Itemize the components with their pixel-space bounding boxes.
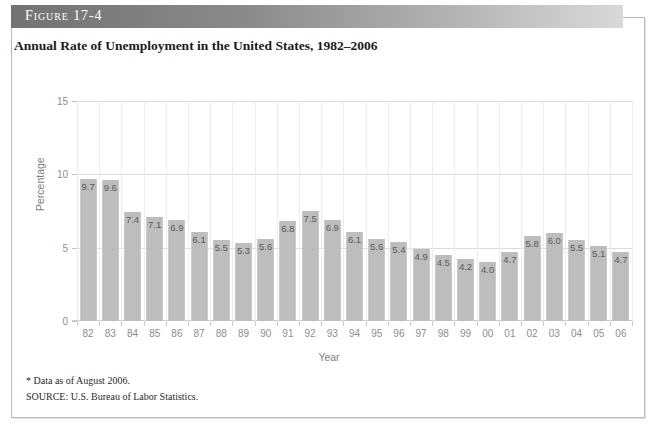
x-tick-mark (521, 321, 522, 326)
bar-value-label: 6.1 (192, 234, 207, 245)
y-axis-title: Percentage (34, 157, 46, 211)
bar: 6.1 (191, 232, 208, 321)
bar-value-label: 6.0 (547, 235, 562, 246)
x-tick-mark (477, 321, 478, 326)
bar: 9.6 (102, 180, 119, 321)
x-tick-mark (121, 321, 122, 326)
x-tick-mark (232, 321, 233, 326)
bar: 5.3 (235, 243, 252, 321)
footnote-text: * Data as of August 2006. (26, 373, 198, 389)
x-gridline (521, 101, 522, 321)
y-tick-label: 10 (40, 169, 68, 180)
x-gridline (166, 101, 167, 321)
x-tick-label: 91 (282, 328, 293, 339)
x-tick-label: 85 (149, 328, 160, 339)
x-gridline (366, 101, 367, 321)
x-tick-mark (321, 321, 322, 326)
x-tick-mark (565, 321, 566, 326)
bar-value-label: 5.5 (569, 242, 584, 253)
x-tick-mark (166, 321, 167, 326)
x-gridline (232, 101, 233, 321)
x-gridline (499, 101, 500, 321)
x-tick-mark (410, 321, 411, 326)
chart-canvas: Percentage 0510159.79.67.47.16.96.15.55.… (12, 18, 646, 419)
y-gridline (77, 174, 632, 175)
x-tick-mark (99, 321, 100, 326)
bar-value-label: 4.7 (502, 254, 517, 265)
x-gridline (210, 101, 211, 321)
x-tick-label: 03 (549, 328, 560, 339)
bar-value-label: 4.5 (436, 257, 451, 268)
bar: 4.7 (501, 252, 518, 321)
x-tick-mark (543, 321, 544, 326)
bar-value-label: 4.7 (613, 254, 628, 265)
x-tick-label: 88 (216, 328, 227, 339)
bar: 6.9 (168, 220, 185, 321)
x-gridline (410, 101, 411, 321)
bar-value-label: 9.7 (81, 181, 96, 192)
bar: 5.6 (368, 239, 385, 321)
x-axis-ticks: 8283848586878889909192939495969798990001… (77, 321, 632, 347)
bar: 5.5 (568, 240, 585, 321)
bar: 5.8 (524, 236, 541, 321)
x-gridline (477, 101, 478, 321)
x-tick-mark (432, 321, 433, 326)
bar-value-label: 5.8 (525, 238, 540, 249)
x-tick-label: 83 (105, 328, 116, 339)
bar: 9.7 (80, 179, 97, 321)
x-tick-mark (210, 321, 211, 326)
bar-value-label: 6.1 (347, 234, 362, 245)
x-tick-mark (499, 321, 500, 326)
y-tick-label: 15 (40, 96, 68, 107)
x-gridline (255, 101, 256, 321)
y-gridline (77, 101, 632, 102)
x-tick-label: 98 (438, 328, 449, 339)
x-tick-label: 86 (171, 328, 182, 339)
bar: 7.5 (302, 211, 319, 321)
x-tick-mark (277, 321, 278, 326)
bar: 6.1 (346, 232, 363, 321)
x-gridline (277, 101, 278, 321)
x-tick-mark (188, 321, 189, 326)
bar-value-label: 9.6 (103, 182, 118, 193)
bar-value-label: 4.9 (414, 251, 429, 262)
x-gridline (632, 101, 633, 321)
figure-footnotes: * Data as of August 2006. SOURCE: U.S. B… (26, 373, 198, 404)
bar-value-label: 5.1 (591, 248, 606, 259)
x-tick-label: 92 (305, 328, 316, 339)
x-gridline (321, 101, 322, 321)
x-gridline (121, 101, 122, 321)
bar-value-label: 6.9 (325, 222, 340, 233)
x-tick-mark (388, 321, 389, 326)
x-gridline (343, 101, 344, 321)
x-tick-mark (454, 321, 455, 326)
bar: 7.4 (124, 212, 141, 321)
x-tick-label: 89 (238, 328, 249, 339)
bar: 4.9 (413, 249, 430, 321)
bar-value-label: 6.8 (280, 223, 295, 234)
source-text: SOURCE: U.S. Bureau of Labor Statistics. (26, 389, 198, 405)
bar: 4.0 (479, 262, 496, 321)
x-gridline (432, 101, 433, 321)
x-tick-label: 90 (260, 328, 271, 339)
bar: 4.7 (612, 252, 629, 321)
x-gridline (388, 101, 389, 321)
x-tick-mark (632, 321, 633, 326)
figure-title: Annual Rate of Unemployment in the Unite… (14, 38, 377, 54)
bar: 5.1 (590, 246, 607, 321)
x-tick-label: 87 (194, 328, 205, 339)
x-tick-mark (343, 321, 344, 326)
x-tick-label: 04 (571, 328, 582, 339)
x-tick-label: 93 (327, 328, 338, 339)
x-tick-mark (610, 321, 611, 326)
bar: 6.0 (546, 233, 563, 321)
x-tick-label: 96 (393, 328, 404, 339)
bar-value-label: 5.6 (369, 241, 384, 252)
bar: 6.8 (279, 221, 296, 321)
figure-header-bar: Figure 17-4 (11, 5, 623, 28)
x-tick-label: 94 (349, 328, 360, 339)
x-tick-mark (255, 321, 256, 326)
bar: 6.9 (324, 220, 341, 321)
bar: 5.4 (390, 242, 407, 321)
x-gridline (144, 101, 145, 321)
